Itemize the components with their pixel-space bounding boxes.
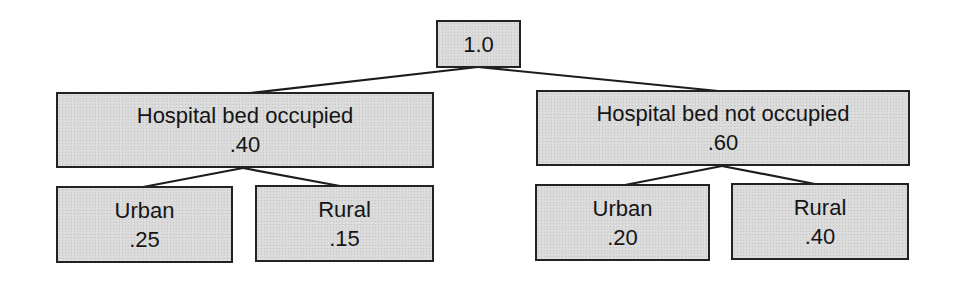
root-node: 1.0 — [436, 20, 521, 68]
node-occupied-rural: Rural .15 — [255, 185, 434, 262]
node-value: .40 — [230, 130, 261, 159]
node-value: .20 — [607, 223, 638, 252]
probability-tree-diagram: 1.0 Hospital bed occupied .40 Hospital b… — [0, 0, 961, 281]
edge-occupied-to-urban — [143, 168, 243, 187]
node-value: .40 — [805, 222, 836, 251]
edge-not-occupied-to-rural — [722, 166, 815, 184]
node-label: Rural — [318, 195, 371, 224]
node-label: Hospital bed not occupied — [596, 99, 849, 128]
node-label: Urban — [593, 194, 653, 223]
node-bed-occupied: Hospital bed occupied .40 — [56, 92, 434, 168]
edge-root-to-occupied — [250, 67, 478, 93]
node-occupied-urban: Urban .25 — [56, 186, 233, 263]
edge-not-occupied-to-urban — [625, 166, 722, 185]
node-value: .25 — [129, 225, 160, 254]
node-not-occupied-rural: Rural .40 — [731, 183, 909, 260]
node-label: Urban — [115, 196, 175, 225]
node-label: Hospital bed occupied — [137, 101, 353, 130]
node-value: .15 — [329, 224, 360, 253]
edge-occupied-to-rural — [243, 168, 340, 186]
node-not-occupied-urban: Urban .20 — [535, 184, 710, 261]
node-value: .60 — [708, 128, 739, 157]
root-value: 1.0 — [463, 30, 494, 59]
node-bed-not-occupied: Hospital bed not occupied .60 — [536, 90, 910, 166]
node-label: Rural — [794, 193, 847, 222]
edge-root-to-not-occupied — [478, 67, 718, 91]
